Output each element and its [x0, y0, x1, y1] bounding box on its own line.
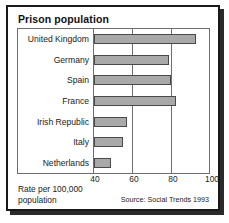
axis-title: Rate per 100,000 population: [18, 184, 98, 205]
category-label: United Kingdom: [18, 29, 93, 50]
tick-label: 60: [129, 174, 138, 184]
category-label: Spain: [18, 70, 93, 91]
category-label: Irish Republic: [18, 111, 93, 132]
source-note: Source: Social Trends 1993: [121, 195, 209, 204]
bar: [94, 137, 123, 147]
bar-row: [94, 152, 209, 173]
bar: [94, 34, 196, 44]
bar-area: [94, 29, 209, 173]
axis-title-line2: population: [18, 195, 98, 206]
chart-title: Prison population: [18, 13, 109, 25]
category-axis: United KingdomGermanySpainFranceIrish Re…: [18, 29, 94, 173]
category-label: Germany: [18, 50, 93, 71]
tick-label: 100: [205, 174, 219, 184]
bar: [94, 75, 171, 85]
bar-row: [94, 111, 209, 132]
tick-label: 80: [168, 174, 177, 184]
bar-row: [94, 91, 209, 112]
tick-label: 40: [90, 174, 99, 184]
bar-row: [94, 29, 209, 50]
category-label: Netherlands: [18, 152, 93, 173]
bar: [94, 55, 169, 65]
value-axis-ticks: 406080100: [93, 174, 210, 185]
category-label: France: [18, 91, 93, 112]
bar-row: [94, 70, 209, 91]
bar: [94, 158, 111, 168]
bar-rows: [94, 29, 209, 173]
bar-row: [94, 132, 209, 153]
bar: [94, 117, 127, 127]
category-label: Italy: [18, 132, 93, 153]
chart-figure: Prison population United KingdomGermanyS…: [6, 5, 220, 211]
bar-row: [94, 50, 209, 71]
axis-title-line1: Rate per 100,000: [18, 184, 98, 195]
bar: [94, 96, 176, 106]
plot-area: United KingdomGermanySpainFranceIrish Re…: [17, 28, 210, 174]
